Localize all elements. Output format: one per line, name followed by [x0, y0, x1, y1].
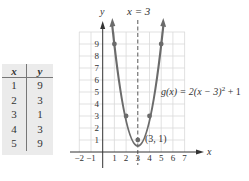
parabola-graph: 1 2 3 4 5 6 7 8 9 −2 −1 1 2 3 4 5 6 7 y … — [0, 0, 249, 181]
x-axis-label: x — [206, 146, 212, 157]
svg-text:2: 2 — [124, 153, 129, 163]
svg-text:5: 5 — [159, 153, 164, 163]
svg-text:2: 2 — [95, 123, 100, 133]
x-tick-labels: −2 −1 1 2 3 4 5 6 7 — [75, 153, 188, 163]
function-label: g(x) = 2(x − 3)2 + 1 — [161, 85, 241, 98]
svg-text:7: 7 — [95, 63, 100, 73]
svg-text:1: 1 — [95, 135, 100, 145]
y-tick-labels: 1 2 3 4 5 6 7 8 9 — [95, 39, 100, 145]
svg-text:4: 4 — [147, 153, 152, 163]
point-4-3 — [147, 114, 152, 119]
x-axis-arrow-icon — [196, 150, 204, 155]
svg-text:5: 5 — [95, 87, 100, 97]
svg-text:3: 3 — [95, 111, 100, 121]
axis-of-symmetry-label: x = 3 — [126, 5, 151, 17]
svg-text:−1: −1 — [86, 153, 96, 163]
svg-text:7: 7 — [182, 153, 187, 163]
y-axis-label: y — [99, 6, 105, 17]
y-axis-arrow-icon — [100, 21, 105, 29]
svg-text:6: 6 — [171, 153, 176, 163]
point-1-9 — [112, 42, 117, 47]
curve-arrow-left-icon — [110, 18, 116, 27]
svg-text:4: 4 — [95, 99, 100, 109]
svg-text:6: 6 — [95, 75, 100, 85]
curve-arrow-right-icon — [160, 18, 166, 27]
svg-text:−2: −2 — [75, 153, 85, 163]
point-5-9 — [159, 42, 164, 47]
svg-text:3: 3 — [136, 153, 141, 163]
point-3-1 — [135, 138, 140, 143]
vertex-label: (3, 1) — [145, 133, 167, 145]
svg-text:8: 8 — [95, 51, 100, 61]
svg-text:9: 9 — [95, 39, 100, 49]
svg-text:1: 1 — [112, 153, 117, 163]
point-2-3 — [124, 114, 129, 119]
